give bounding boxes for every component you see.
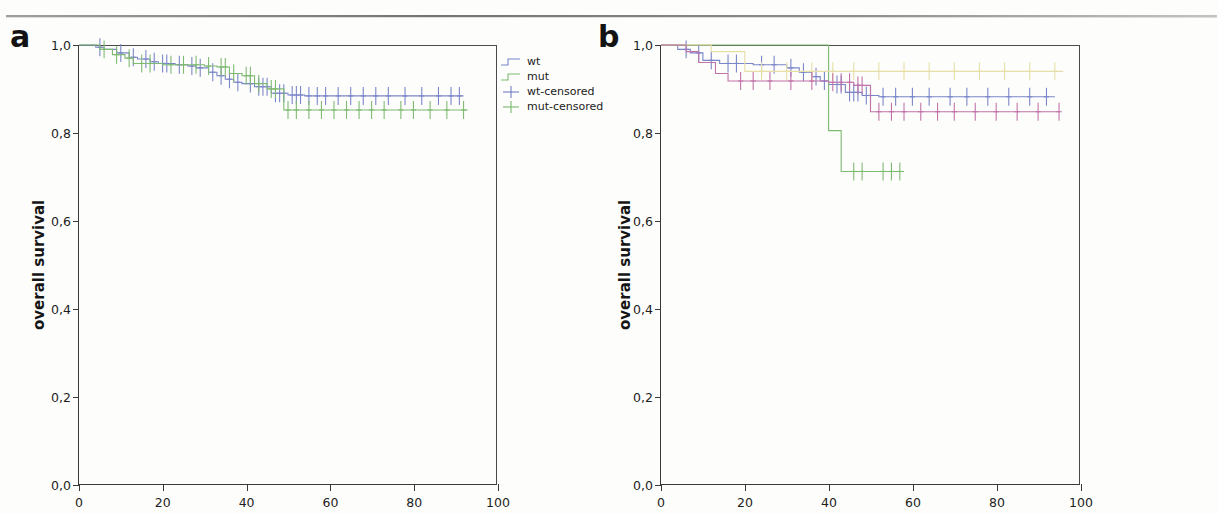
panel-a-letter: a	[10, 22, 29, 52]
panel-a-y-tick-label: 0,4	[51, 302, 71, 317]
panel-b-x-tick	[1081, 484, 1082, 491]
panel-a-y-tick-label: 0,0	[51, 478, 71, 493]
panel-a-y-tick	[73, 397, 79, 398]
panel-a-x-tick	[79, 484, 80, 491]
panel-a-x-tick	[247, 484, 248, 491]
legend-key	[500, 85, 522, 99]
panel-b-y-tick-label: 0,4	[633, 302, 653, 317]
panel-b-letter: b	[598, 22, 618, 52]
panel-a-curves	[79, 45, 497, 484]
panel-a-y-tick	[73, 45, 79, 46]
panel-a-x-tick-label: 80	[406, 495, 422, 510]
panel-b-x-tick-label: 80	[989, 495, 1005, 510]
panel-a-x-tick-label: 40	[239, 495, 255, 510]
legend-key	[500, 55, 522, 69]
panel-b-x-tick-label: 60	[905, 495, 921, 510]
panel-b-y-tick-label: 1,0	[633, 38, 653, 53]
panel-a: a overall survival 1,00,80,60,40,20,0020…	[0, 0, 610, 514]
panel-a-x-tick	[414, 484, 415, 491]
curve-exon-20	[661, 45, 1059, 112]
legend-label: wt	[527, 56, 540, 67]
curve-exon-9	[661, 45, 1063, 71]
panel-a-x-tick	[330, 484, 331, 491]
panel-b-x-tick-label: 40	[821, 495, 837, 510]
legend-key	[500, 100, 522, 114]
legend-key	[500, 70, 522, 84]
panel-b-y-tick-label: 0,6	[633, 214, 653, 229]
panel-a-y-tick-label: 0,8	[51, 126, 71, 141]
legend-plus-icon	[500, 100, 522, 114]
curve-other-exons	[661, 45, 904, 171]
panel-a-y-tick-label: 0,2	[51, 390, 71, 405]
curve-mut	[79, 45, 468, 110]
legend-label: wt-censored	[527, 86, 595, 97]
panel-a-x-tick	[163, 484, 164, 491]
panel-b-y-tick	[655, 133, 661, 134]
panel-b-y-tick	[655, 221, 661, 222]
panel-a-y-axis-title: overall survival	[30, 200, 48, 330]
panel-b-x-tick	[913, 484, 914, 491]
panel-b-x-tick-label: 0	[657, 495, 665, 510]
legend-label: mut	[527, 71, 549, 82]
panel-b-y-tick	[655, 397, 661, 398]
censor-marks-wt	[97, 38, 462, 105]
panel-b-y-axis-title: overall survival	[616, 200, 634, 330]
legend-plus-icon	[500, 85, 522, 99]
legend-step-icon	[500, 70, 522, 84]
panel-a-y-tick	[73, 309, 79, 310]
panel-a-x-tick-label: 0	[75, 495, 83, 510]
panel-b-y-tick-label: 0,0	[633, 478, 653, 493]
panel-a-x-tick-label: 60	[322, 495, 338, 510]
panel-b-x-tick	[745, 484, 746, 491]
panel-b-y-tick-label: 0,8	[633, 126, 653, 141]
panel-b-x-tick-label: 100	[1069, 495, 1093, 510]
panel-a-plot-frame: 1,00,80,60,40,20,0020406080100	[78, 45, 497, 485]
panel-a-x-tick-label: 100	[486, 495, 510, 510]
panel-b-y-tick	[655, 309, 661, 310]
panel-b-curves	[661, 45, 1080, 484]
panel-b-plot-frame: 1,00,80,60,40,20,0020406080100	[660, 45, 1080, 485]
panel-b-x-tick	[829, 484, 830, 491]
panel-a-y-tick-label: 0,6	[51, 214, 71, 229]
panel-b-y-tick-label: 0,2	[633, 390, 653, 405]
panel-a-x-tick	[498, 484, 499, 491]
panel-a-x-tick-label: 20	[155, 495, 171, 510]
panel-a-y-tick	[73, 133, 79, 134]
panel-b: b overall survival 1,00,80,60,40,20,0020…	[588, 0, 1219, 514]
panel-b-x-tick	[997, 484, 998, 491]
censor-marks-wt	[684, 40, 1050, 105]
panel-a-y-tick-label: 1,0	[51, 38, 71, 53]
panel-b-x-tick-label: 20	[737, 495, 753, 510]
legend-step-icon	[500, 55, 522, 69]
panel-b-x-tick	[661, 484, 662, 491]
panel-b-y-tick	[655, 45, 661, 46]
panel-a-y-tick	[73, 221, 79, 222]
